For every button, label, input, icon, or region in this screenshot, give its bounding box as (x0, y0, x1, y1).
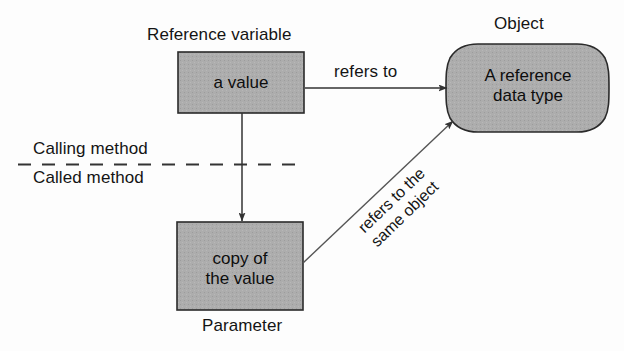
object-body-label: A reference data type (452, 66, 604, 106)
object-caption: Object (494, 14, 544, 33)
object-body-line-2: data type (452, 86, 604, 106)
copy-of-value-line-2: the value (177, 269, 303, 289)
copy-of-value-line-1: copy of (177, 249, 303, 269)
calling-method-caption: Calling method (33, 139, 148, 158)
refers-to-edge-label: refers to (334, 62, 397, 81)
reference-variable-diagram: Reference variable a value Object A refe… (0, 0, 624, 351)
copy-of-value-box-label: copy of the value (177, 249, 303, 289)
called-method-caption: Called method (33, 168, 144, 187)
parameter-caption: Parameter (202, 316, 282, 335)
object-body-line-1: A reference (452, 66, 604, 86)
a-value-box-label: a value (178, 73, 304, 93)
reference-variable-caption: Reference variable (147, 25, 292, 44)
